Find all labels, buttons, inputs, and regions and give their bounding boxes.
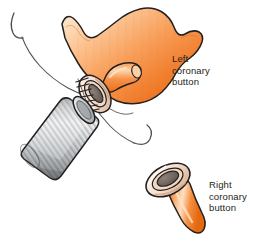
label-left-coronary-button: Left coronary button [172,53,210,88]
coronary-button-figure: Left coronary button Right coronary butt… [0,0,256,245]
label-right-coronary-button: Right coronary button [209,179,247,214]
